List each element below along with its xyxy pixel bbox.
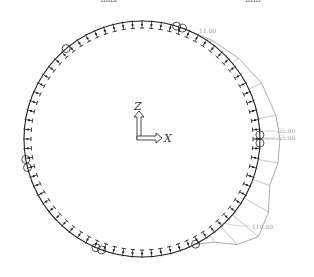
ring-diagram-figure: · · · · · · max · · · · min · · · · · · … xyxy=(0,0,314,277)
spring-support-icon xyxy=(246,173,254,178)
spring-support-icon xyxy=(42,198,50,204)
spring-support-icon xyxy=(193,34,199,42)
spring-support-icon xyxy=(239,190,247,196)
spring-support-icon xyxy=(201,231,207,239)
spring-support-icon xyxy=(69,225,76,233)
header-fragment-2: · · · · min xyxy=(225,0,261,4)
spring-support-icon xyxy=(54,213,61,220)
spring-support-icon xyxy=(48,66,56,73)
spring-support-icon xyxy=(208,45,215,53)
spring-support-icon xyxy=(243,91,251,96)
spring-support-icon xyxy=(61,219,68,226)
spring-support-icon xyxy=(167,24,171,32)
spring-support-icon xyxy=(33,91,41,96)
spring-support-icon xyxy=(234,74,242,80)
z-axis-label: Z xyxy=(133,100,142,113)
header-fragment-1: · · · · · · max xyxy=(70,0,117,4)
spring-support-icon xyxy=(234,198,242,204)
cropped-header: · · · · · · max · · · · min · · · · · · … xyxy=(0,0,314,5)
spring-support-icon xyxy=(54,58,61,65)
header-fragment-3: · · · · · · · · xyxy=(262,0,300,4)
spring-support-icon xyxy=(228,205,236,212)
force-outline xyxy=(182,28,280,244)
spring-support-icon xyxy=(85,34,91,42)
spring-support-icon xyxy=(48,205,56,212)
spring-support-icon xyxy=(29,173,37,178)
force-label-mid-1: -55.00 xyxy=(276,127,295,134)
axis-indicator: Z X xyxy=(133,100,173,145)
spring-support-icon xyxy=(193,236,199,244)
spring-support-icon xyxy=(27,110,35,114)
spring-support-icon xyxy=(239,82,247,88)
spring-support-icon xyxy=(176,243,181,251)
spring-support-icon xyxy=(77,39,83,47)
spring-support-icon xyxy=(228,66,236,73)
force-label-top: 11.00 xyxy=(199,27,216,34)
x-axis-label: X xyxy=(163,132,173,145)
force-distribution-diagram xyxy=(182,28,280,244)
spring-support-icon xyxy=(113,246,117,254)
spring-support-icon xyxy=(103,26,108,34)
spring-support-icon xyxy=(37,190,45,196)
diagram-canvas: Z X 11.00 -55.00 -55.00 110.00 xyxy=(0,0,314,277)
spring-support-icon xyxy=(249,110,257,114)
spring-support-icon xyxy=(216,51,223,58)
spring-support-icon xyxy=(222,213,229,220)
spring-support-icon xyxy=(33,182,41,187)
spring-support-icon xyxy=(246,100,254,105)
spring-support-icon xyxy=(85,236,91,244)
spring-support-icon xyxy=(77,231,83,239)
force-label-bottom: 110.00 xyxy=(252,223,273,230)
spring-support-icon xyxy=(29,100,37,105)
spring-support-icon xyxy=(208,225,215,233)
spring-support-icon xyxy=(243,182,251,187)
spring-support-icon xyxy=(185,240,190,248)
spring-support-icon xyxy=(222,58,229,65)
spring-support-icon xyxy=(113,24,117,32)
spring-support-icon xyxy=(249,164,257,168)
spring-support-icon xyxy=(201,39,207,47)
spring-support-icon xyxy=(167,246,171,254)
spring-support-icon xyxy=(94,30,99,38)
spring-support-icon xyxy=(37,82,45,88)
force-label-mid-2: -55.00 xyxy=(276,134,295,141)
spring-support-icon xyxy=(42,74,50,80)
